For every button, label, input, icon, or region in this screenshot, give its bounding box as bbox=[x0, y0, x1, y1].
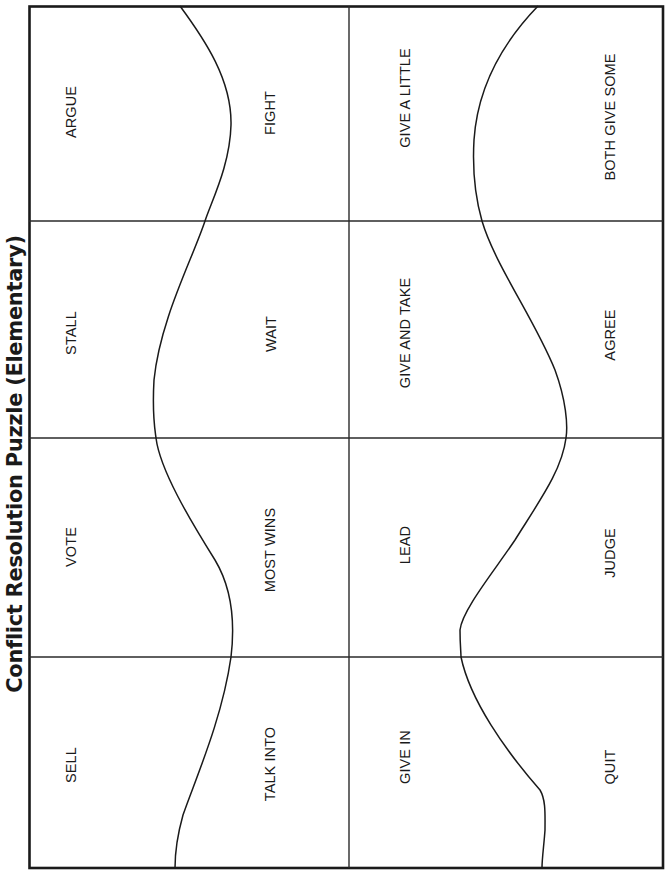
puzzle-border bbox=[30, 7, 664, 869]
puzzle-grid bbox=[0, 0, 667, 875]
piece-label-judge[interactable]: JUDGE bbox=[602, 528, 618, 578]
piece-label-give-and-take[interactable]: GIVE AND TAKE bbox=[397, 278, 413, 388]
wavy-cut-line-left bbox=[153, 6, 232, 868]
piece-label-lead[interactable]: LEAD bbox=[397, 526, 413, 564]
piece-label-quit[interactable]: QUIT bbox=[602, 749, 618, 784]
piece-label-sell[interactable]: SELL bbox=[63, 747, 79, 783]
piece-label-wait[interactable]: WAIT bbox=[263, 316, 279, 352]
piece-label-stall[interactable]: STALL bbox=[63, 311, 79, 355]
piece-label-talk-into[interactable]: TALK INTO bbox=[262, 727, 278, 802]
piece-label-argue[interactable]: ARGUE bbox=[63, 86, 79, 138]
wavy-cut-line-right bbox=[460, 6, 567, 868]
piece-label-give-in[interactable]: GIVE IN bbox=[397, 730, 413, 784]
piece-label-give-a-little[interactable]: GIVE A LITTLE bbox=[397, 48, 413, 148]
piece-label-most-wins[interactable]: MOST WINS bbox=[262, 508, 278, 592]
piece-label-vote[interactable]: VOTE bbox=[63, 527, 79, 567]
piece-label-fight[interactable]: FIGHT bbox=[262, 91, 278, 135]
piece-label-agree[interactable]: AGREE bbox=[602, 309, 618, 360]
piece-label-both-give-some[interactable]: BOTH GIVE SOME bbox=[602, 53, 618, 180]
